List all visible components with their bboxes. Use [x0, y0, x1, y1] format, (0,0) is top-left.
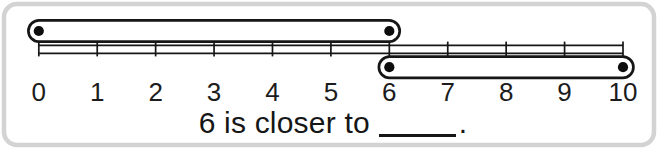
tick-label-7: 7: [441, 77, 455, 107]
bar-0-to-6: [28, 20, 399, 41]
bar-0-to-6-start-dot: [34, 26, 44, 36]
tick-label-4: 4: [265, 77, 279, 107]
tick-label-1: 1: [90, 77, 104, 107]
tick-label-8: 8: [499, 77, 513, 107]
tick-label-6: 6: [382, 77, 396, 107]
tick-label-10: 10: [609, 77, 638, 107]
question-caption: 6 is closer to.: [0, 106, 666, 140]
tick-label-2: 2: [148, 77, 162, 107]
caption-suffix: .: [459, 106, 468, 139]
caption-prefix: 6 is closer to: [199, 106, 370, 139]
worksheet-panel: 012345678910 6 is closer to.: [0, 0, 666, 154]
bar-6-to-10-start-dot: [384, 62, 394, 72]
tick-label-9: 9: [557, 77, 571, 107]
answer-blank: [379, 133, 456, 137]
bar-6-to-10-end-dot: [618, 62, 628, 72]
tick-label-5: 5: [324, 77, 338, 107]
bar-0-to-6-end-dot: [384, 26, 394, 36]
bar-0-to-6-outline: [28, 20, 399, 41]
tick-label-0: 0: [32, 77, 46, 107]
bar-6-to-10-outline: [379, 57, 633, 78]
bar-6-to-10: [379, 57, 633, 78]
tick-label-3: 3: [207, 77, 221, 107]
